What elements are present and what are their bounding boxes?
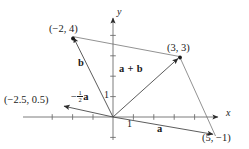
point-label-half-a-tip: (−2.5, 0.5)	[4, 95, 48, 106]
y-axis-label: y	[117, 7, 121, 17]
dot-sum-tip	[178, 56, 182, 60]
vector-a-plus-b-label: a + b	[119, 64, 143, 75]
fraction-denominator: 2	[77, 96, 82, 104]
vector-a-label: a	[157, 124, 162, 135]
vector-addition-figure: (−2, 4) (3, 3) (5, −1) (−2.5, 0.5) y x 1…	[0, 0, 249, 149]
y-axis-tick-label-1: 1	[104, 90, 109, 100]
vector-b-arrow	[74, 38, 114, 118]
x-axis-label: x	[226, 108, 230, 118]
point-label-sum-tip: (3, 3)	[167, 43, 190, 54]
neg-half-a-vector-letter: a	[83, 92, 88, 103]
neg-half-a-minus: −	[71, 92, 77, 103]
dot-b-tip	[71, 37, 75, 41]
x-axis-tick-label-1: 1	[127, 119, 132, 129]
point-label-b-tip: (−2, 4)	[49, 24, 78, 35]
figure-canvas	[0, 0, 249, 149]
point-label-a-tip: (5, −1)	[202, 133, 231, 144]
vector-neg-half-a-arrow	[64, 106, 113, 117]
vector-neg-half-a-label: − 1 2 a	[71, 90, 88, 104]
construction-line-top	[73, 37, 180, 57]
one-half-fraction: 1 2	[77, 90, 82, 104]
construction-line-right	[180, 58, 216, 137]
vector-b-label: b	[78, 58, 84, 69]
